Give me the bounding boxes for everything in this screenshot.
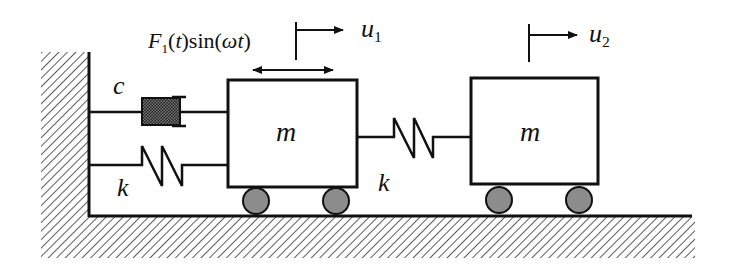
diagram-canvas: F1(t)sin(ωt) u1 u2 c k k m m bbox=[0, 0, 733, 271]
damper-label: c bbox=[113, 73, 125, 99]
close-paren: ) bbox=[244, 28, 251, 53]
omega-symbol: ω bbox=[222, 28, 238, 53]
sin-text: sin( bbox=[189, 28, 222, 53]
fixed-wall bbox=[41, 52, 89, 258]
force-symbol: F bbox=[148, 28, 161, 53]
damper bbox=[89, 97, 228, 126]
u1-label: u1 bbox=[361, 16, 382, 45]
u1-symbol: u bbox=[361, 14, 374, 43]
u2-subscript: 2 bbox=[602, 33, 610, 50]
displacement-u2-arrow bbox=[529, 24, 577, 62]
mass2-label: m bbox=[520, 118, 540, 146]
displacement-u1-arrow bbox=[296, 22, 343, 60]
u2-symbol: u bbox=[589, 19, 602, 48]
force-label: F1(t)sin(ωt) bbox=[148, 30, 251, 55]
spring-wall-label: k bbox=[117, 175, 129, 201]
spring-between-label: k bbox=[378, 170, 390, 196]
u2-label: u2 bbox=[589, 21, 610, 50]
u1-subscript: 1 bbox=[374, 28, 382, 45]
ground bbox=[88, 216, 695, 258]
mass-1 bbox=[228, 80, 357, 214]
spring-wall-mass1 bbox=[89, 146, 228, 186]
spring-mass1-mass2 bbox=[357, 118, 471, 158]
mass1-label: m bbox=[276, 118, 296, 146]
